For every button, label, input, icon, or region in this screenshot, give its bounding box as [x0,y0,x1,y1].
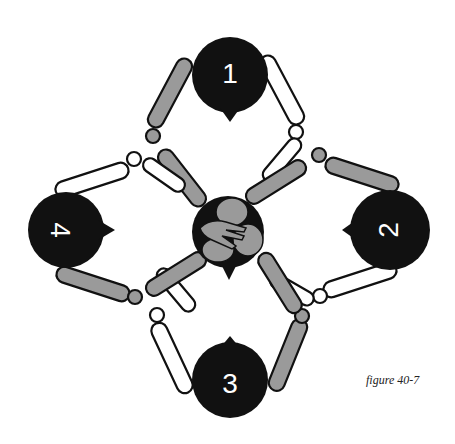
figure-1-number: 1 [222,58,238,89]
arm-3-right [266,317,309,393]
figure-2-number: 2 [373,222,404,238]
arm-2-upper [323,156,400,195]
arm-1-left-upper [145,56,195,131]
figure-3-number: 3 [222,368,238,399]
joint-4-upper [127,152,141,166]
joint-1-left [146,129,160,143]
joint-2-upper [312,148,326,162]
arm-4-lower [54,265,131,304]
joint-3-left [150,308,164,322]
arm-3-left [149,320,196,396]
arm-3-right-inner [255,250,305,316]
figure-caption: figure 40-7 [366,373,419,388]
figure-4-number: 4 [45,222,76,238]
joint-4-lower [128,290,142,304]
joint-1-right [289,125,303,139]
joint-2-lower [313,289,327,303]
